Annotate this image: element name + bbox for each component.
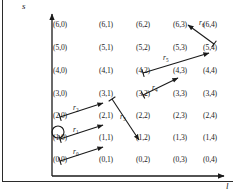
lattice-node-label: (6,3) bbox=[173, 21, 187, 29]
arrow-label-subscript: 2 bbox=[76, 107, 79, 113]
lattice-node-label: (5,1) bbox=[99, 44, 113, 52]
lattice-node-label: (5,2) bbox=[136, 44, 150, 52]
lattice-node-label: (2,0) bbox=[53, 112, 67, 120]
arrow-label-r2: r2 bbox=[73, 104, 78, 114]
lattice-node-label: (4,3) bbox=[173, 67, 187, 75]
lattice-node-label: (4,4) bbox=[203, 67, 217, 75]
lattice-node-label: (0,3) bbox=[173, 156, 187, 164]
lattice-node-label: (0,4) bbox=[203, 156, 217, 164]
x-axis-label: l bbox=[226, 182, 229, 191]
y-axis-label: s bbox=[22, 2, 26, 11]
lattice-node-label: (1,3) bbox=[173, 134, 187, 142]
lattice-node-label: (2,4) bbox=[203, 112, 217, 120]
lattice-node-label: (5,3) bbox=[173, 44, 187, 52]
lattice-node-label: (5,0) bbox=[53, 44, 67, 52]
lattice-node-label: (2,1) bbox=[99, 112, 113, 120]
lattice-node-label: (3,0) bbox=[53, 90, 67, 98]
arrow-label-r5: r5 bbox=[163, 54, 168, 64]
arrow-label-subscript: 0 bbox=[76, 151, 79, 157]
lattice-node-label: (5,4) bbox=[203, 44, 217, 52]
arrow-label-r6: r6 bbox=[199, 19, 204, 29]
arrow-label-subscript: 6 bbox=[202, 22, 205, 28]
lattice-node-label: (6,4) bbox=[203, 21, 217, 29]
arrow-label-subscript: 3 bbox=[123, 116, 126, 122]
lattice-node-label: (2,3) bbox=[173, 112, 187, 120]
lattice-node-label: (1,2) bbox=[136, 134, 150, 142]
lattice-node-label: (0,0) bbox=[53, 156, 67, 164]
arrow-label-subscript: 4 bbox=[155, 87, 158, 93]
lattice-node-label: (6,2) bbox=[136, 21, 150, 29]
arrow-label-subscript: 1 bbox=[76, 129, 79, 135]
lattice-node-label: (3,1) bbox=[99, 90, 113, 98]
arrow-label-r0: r0 bbox=[73, 148, 78, 158]
lattice-node-label: (6,1) bbox=[99, 21, 113, 29]
lattice-node-label: (4,0) bbox=[53, 67, 67, 75]
arrow-label-subscript: 5 bbox=[166, 57, 169, 63]
arrow-label-r4: r4 bbox=[152, 84, 157, 94]
transition-arrow-r3 bbox=[112, 99, 139, 140]
lattice-node-label: (6,0) bbox=[53, 21, 67, 29]
lattice-node-label: (0,1) bbox=[99, 156, 113, 164]
diagram-canvas bbox=[0, 0, 235, 196]
lattice-node-label: (4,1) bbox=[99, 67, 113, 75]
lattice-node-label: (1,0) bbox=[53, 134, 67, 142]
lattice-node-label: (2,2) bbox=[136, 112, 150, 120]
arrow-label-r3: r3 bbox=[120, 113, 125, 123]
lattice-node-label: (1,1) bbox=[99, 134, 113, 142]
lattice-node-label: (3,4) bbox=[203, 90, 217, 98]
arrow-label-r1: r1 bbox=[73, 126, 78, 136]
state-lattice-figure: s l (6,0)(6,1)(6,2)(6,3)(6,4)(5,0)(5,1)(… bbox=[0, 0, 235, 196]
lattice-node-label: (3,2) bbox=[136, 90, 150, 98]
lattice-node-label: (4,2) bbox=[136, 67, 150, 75]
lattice-node-label: (3,3) bbox=[173, 90, 187, 98]
lattice-node-label: (1,4) bbox=[203, 134, 217, 142]
lattice-node-label: (0,2) bbox=[136, 156, 150, 164]
